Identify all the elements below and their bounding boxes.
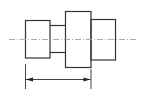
stepped-shaft-drawing <box>0 0 149 107</box>
arrowhead-right-icon <box>84 78 91 82</box>
arrowhead-left-icon <box>26 78 33 82</box>
